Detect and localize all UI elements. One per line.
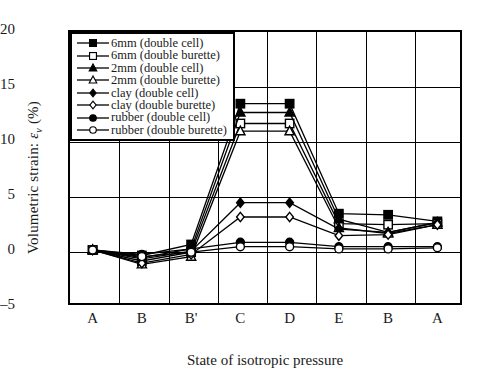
data-point-open-diamond	[90, 101, 96, 109]
legend-symbol-filled-triangle	[76, 62, 110, 74]
legend-item: rubber (double cell)	[76, 111, 227, 123]
legend-label: 2mm (double burette)	[110, 74, 220, 87]
y-tick-label: 20	[0, 22, 15, 37]
y-tick-label: 15	[0, 77, 15, 92]
legend-item: 2mm (double burette)	[76, 74, 227, 86]
legend-label: 6mm (double burette)	[110, 49, 220, 62]
legend-symbol-open-circle	[76, 124, 110, 136]
data-point-filled-diamond	[286, 198, 294, 207]
legend-label: rubber (double burette)	[110, 124, 227, 137]
x-tick-label: A	[407, 310, 467, 327]
y-tick-label: –5	[0, 297, 15, 312]
legend-symbol-filled-diamond	[76, 87, 110, 99]
data-point-open-diamond	[237, 212, 245, 221]
legend: 6mm (double cell)6mm (double burette)2mm…	[70, 32, 235, 141]
data-point-open-diamond	[335, 231, 343, 240]
data-point-open-circle	[89, 246, 97, 254]
data-point-filled-circle	[90, 114, 97, 121]
legend-symbol-open-triangle	[76, 74, 110, 86]
legend-symbol-filled-square	[76, 37, 110, 49]
legend-symbol-open-diamond	[76, 99, 110, 111]
data-point-filled-diamond	[90, 89, 96, 97]
legend-symbol-filled-circle	[76, 112, 110, 124]
y-axis-title-unit: (%)	[25, 101, 41, 128]
data-point-open-square	[90, 52, 97, 59]
data-point-filled-square	[384, 211, 392, 219]
data-point-open-circle	[236, 243, 244, 251]
data-point-open-circle	[286, 243, 294, 251]
legend-item: 6mm (double burette)	[76, 49, 227, 61]
legend-item: rubber (double burette)	[76, 124, 227, 136]
data-point-open-diamond	[286, 212, 294, 221]
data-point-open-circle	[433, 244, 441, 252]
data-point-open-circle	[90, 127, 97, 134]
y-axis-title-symbol: ε	[25, 133, 41, 139]
legend-symbol-open-square	[76, 50, 110, 62]
series-line	[93, 124, 438, 262]
y-tick-label: 0	[0, 242, 15, 257]
data-point-open-circle	[384, 245, 392, 253]
legend-label: rubber (double cell)	[110, 111, 210, 124]
y-tick-label: 10	[0, 132, 15, 147]
data-point-filled-square	[90, 40, 97, 47]
x-axis-title: State of isotropic pressure	[68, 352, 462, 369]
y-tick-label: 5	[0, 187, 15, 202]
data-point-open-circle	[187, 248, 195, 256]
figure: Volumetric strain: εv (%) 20151050–5 ABB…	[0, 0, 485, 385]
y-axis-title-prefix: Volumetric strain:	[25, 139, 41, 254]
y-axis-title: Volumetric strain: εv (%)	[25, 55, 44, 300]
data-point-open-circle	[138, 253, 146, 261]
data-point-open-circle	[335, 245, 343, 253]
y-axis-title-subscript: v	[33, 128, 44, 133]
